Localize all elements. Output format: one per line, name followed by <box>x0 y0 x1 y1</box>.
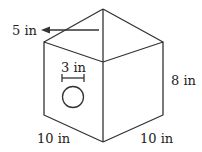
entrance-hole <box>63 87 84 108</box>
box-right-face <box>103 42 163 142</box>
birdhouse-diagram: 5 in 3 in 8 in 10 in 10 in <box>0 0 202 152</box>
roof-edge-left <box>44 9 103 42</box>
roof-height-label: 5 in <box>12 23 38 38</box>
box-height-label: 8 in <box>171 73 197 88</box>
arrowhead-icon <box>41 27 50 34</box>
right-width-label: 10 in <box>140 131 174 146</box>
box-left-face <box>44 42 103 142</box>
left-width-label: 10 in <box>37 131 71 146</box>
roof-edge-right <box>103 9 163 42</box>
hole-diameter-label: 3 in <box>61 60 87 75</box>
